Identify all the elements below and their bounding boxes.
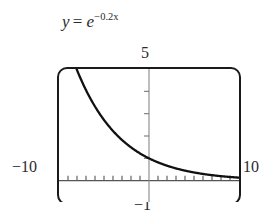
equation-label: y=e−0.2x [62, 12, 119, 32]
plot-area [54, 62, 244, 202]
graph-figure: y=e−0.2x 5 −10 10 −1 [0, 0, 274, 224]
y-max-label: 5 [141, 44, 149, 62]
equation-exponent: −0.2x [94, 11, 118, 22]
x-max-label: 10 [243, 158, 259, 176]
equation-relation: = [70, 12, 87, 31]
x-min-label: −10 [12, 158, 37, 176]
equation-lhs: y [62, 12, 70, 31]
